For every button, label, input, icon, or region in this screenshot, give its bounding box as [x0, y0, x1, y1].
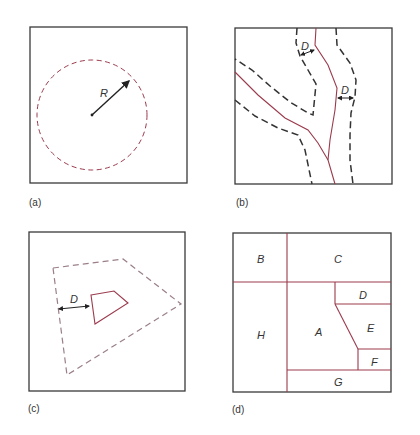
panel-d: B C D A E F H G (d) — [232, 233, 391, 415]
region-g-label: G — [334, 376, 343, 388]
region-h-label: H — [257, 329, 265, 341]
region-e-label: E — [367, 322, 375, 334]
buffer-right — [336, 28, 356, 184]
buffer-diagram: R (a) D D (b) D (c) B — [0, 0, 420, 435]
polygon-feature — [91, 291, 128, 324]
distance-arrow — [59, 306, 89, 309]
buffer-left-lower — [235, 100, 312, 184]
region-a-label: A — [314, 326, 322, 338]
region-f-label: F — [371, 356, 379, 368]
panel-b: D D (b) — [235, 28, 392, 208]
panel-c-caption: (c) — [28, 403, 40, 414]
panel-c-frame — [29, 232, 185, 391]
panel-c: D (c) — [28, 232, 185, 414]
divider-a-e-diagonal — [335, 304, 358, 349]
region-d-label: D — [359, 289, 367, 301]
panel-d-caption: (d) — [232, 404, 244, 415]
distance-label: D — [70, 293, 78, 305]
panel-b-caption: (b) — [236, 197, 248, 208]
distance-label-2: D — [341, 84, 349, 96]
region-b-label: B — [257, 253, 264, 265]
line-feature-branch — [235, 72, 328, 160]
region-c-label: C — [334, 253, 342, 265]
radius-label: R — [100, 87, 108, 99]
polygon-buffer — [53, 259, 181, 375]
line-feature-main — [315, 28, 337, 184]
radius-arrow — [92, 81, 129, 115]
distance-label-1: D — [301, 40, 309, 52]
panel-a: R (a) — [29, 27, 187, 208]
panel-a-caption: (a) — [29, 197, 41, 208]
panel-a-frame — [30, 27, 187, 183]
